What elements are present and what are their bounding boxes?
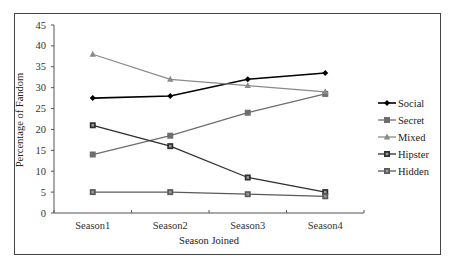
- series-social: [90, 70, 329, 101]
- legend-label: Hipster: [398, 149, 429, 160]
- y-tick-label: 25: [36, 103, 47, 114]
- legend-item-mixed: Mixed: [378, 132, 426, 143]
- data-point-marker: [384, 151, 390, 157]
- x-axis: Season1Season2Season3Season4: [54, 210, 364, 231]
- series-hipster: [90, 122, 329, 195]
- x-axis-title: Season Joined: [179, 235, 240, 246]
- series-hidden: [90, 189, 329, 199]
- y-tick-label: 35: [36, 61, 47, 72]
- x-tick-label: Season3: [230, 220, 265, 231]
- data-point-marker: [384, 117, 390, 123]
- y-tick-label: 10: [36, 166, 47, 177]
- data-point-marker: [245, 174, 251, 180]
- legend-item-social: Social: [378, 98, 424, 109]
- data-point-marker: [322, 70, 328, 76]
- data-point-marker: [90, 152, 96, 158]
- y-tick-label: 45: [36, 20, 47, 31]
- x-tick-label: Season1: [75, 220, 110, 231]
- y-tick-label: 0: [41, 208, 46, 219]
- legend-label: Secret: [398, 115, 424, 126]
- x-tick-label: Season2: [153, 220, 188, 231]
- data-point-marker: [90, 95, 96, 101]
- x-tick-label: Season4: [308, 220, 344, 231]
- legend-item-secret: Secret: [378, 115, 424, 126]
- legend-label: Mixed: [398, 132, 426, 143]
- data-point-marker: [167, 93, 173, 99]
- data-point-marker: [167, 189, 173, 195]
- legend-item-hidden: Hidden: [378, 166, 430, 177]
- y-axis-title: Percentage of Fandom: [14, 73, 25, 167]
- data-point-marker: [167, 133, 173, 139]
- data-point-marker: [322, 193, 328, 199]
- legend-label: Hidden: [398, 166, 430, 177]
- plot-series: [90, 51, 329, 200]
- line-chart: 051015202530354045 Season1Season2Season3…: [0, 0, 453, 271]
- data-point-marker: [245, 191, 251, 197]
- y-tick-label: 15: [36, 145, 47, 156]
- y-tick-label: 40: [36, 40, 47, 51]
- y-tick-label: 30: [36, 82, 47, 93]
- y-axis: 051015202530354045: [36, 20, 55, 219]
- data-point-marker: [384, 100, 390, 106]
- data-point-marker: [90, 51, 96, 57]
- series-secret: [90, 91, 329, 158]
- legend-item-hipster: Hipster: [378, 149, 429, 160]
- data-point-marker: [245, 110, 251, 116]
- data-point-marker: [90, 189, 96, 195]
- data-point-marker: [90, 122, 96, 128]
- data-point-marker: [245, 76, 251, 82]
- legend: SocialSecretMixedHipsterHidden: [378, 98, 430, 177]
- y-tick-label: 5: [41, 187, 46, 198]
- y-tick-label: 20: [36, 124, 47, 135]
- legend-label: Social: [398, 98, 424, 109]
- data-point-marker: [384, 168, 390, 174]
- data-point-marker: [167, 143, 173, 149]
